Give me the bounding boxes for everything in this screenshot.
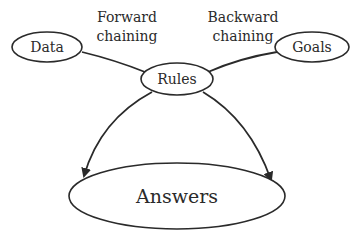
node-answers: Answers bbox=[69, 163, 285, 229]
forward-label-line1: Forward bbox=[97, 9, 157, 25]
answers-label: Answers bbox=[135, 185, 218, 207]
node-goals: Goals bbox=[275, 32, 349, 62]
forward-chaining-label: Forward chaining bbox=[96, 9, 157, 44]
edge-data-to-rules bbox=[82, 52, 145, 72]
rules-label: Rules bbox=[157, 71, 197, 87]
backward-chaining-label: Backward chaining bbox=[208, 9, 279, 44]
data-label: Data bbox=[30, 39, 64, 55]
backward-label-line2: chaining bbox=[212, 28, 273, 44]
goals-label: Goals bbox=[292, 39, 332, 55]
edge-rules-to-answers-left bbox=[84, 92, 152, 176]
node-data: Data bbox=[12, 32, 82, 62]
forward-label-line2: chaining bbox=[96, 28, 157, 44]
node-rules: Rules bbox=[141, 63, 213, 95]
chaining-diagram: Forward chaining Backward chaining Data … bbox=[0, 0, 359, 237]
backward-label-line1: Backward bbox=[208, 9, 279, 25]
edge-goals-to-rules bbox=[208, 52, 277, 72]
